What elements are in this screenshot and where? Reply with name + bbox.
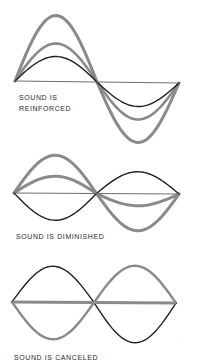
caption-reinforced: SOUND IS REINFORCED <box>19 92 71 114</box>
panel-canceled <box>12 266 176 343</box>
panel-reinforced <box>15 16 179 143</box>
caption-line: SOUND IS CANCELED <box>14 352 98 362</box>
caption-line: REINFORCED <box>19 103 71 114</box>
zero-axis-line <box>12 302 176 303</box>
resultant-wave-gray <box>15 16 179 143</box>
zero-axis-line <box>14 193 179 194</box>
caption-canceled: SOUND IS CANCELED <box>14 352 98 362</box>
caption-line: SOUND IS <box>19 92 71 103</box>
waves-canvas <box>0 0 197 362</box>
wave-interference-diagram: SOUND IS REINFORCED SOUND IS DIMINISHED … <box>0 0 197 362</box>
caption-diminished: SOUND IS DIMINISHED <box>16 231 104 242</box>
panel-diminished <box>14 155 179 231</box>
print-speck <box>177 337 178 338</box>
caption-line: SOUND IS DIMINISHED <box>16 231 104 242</box>
